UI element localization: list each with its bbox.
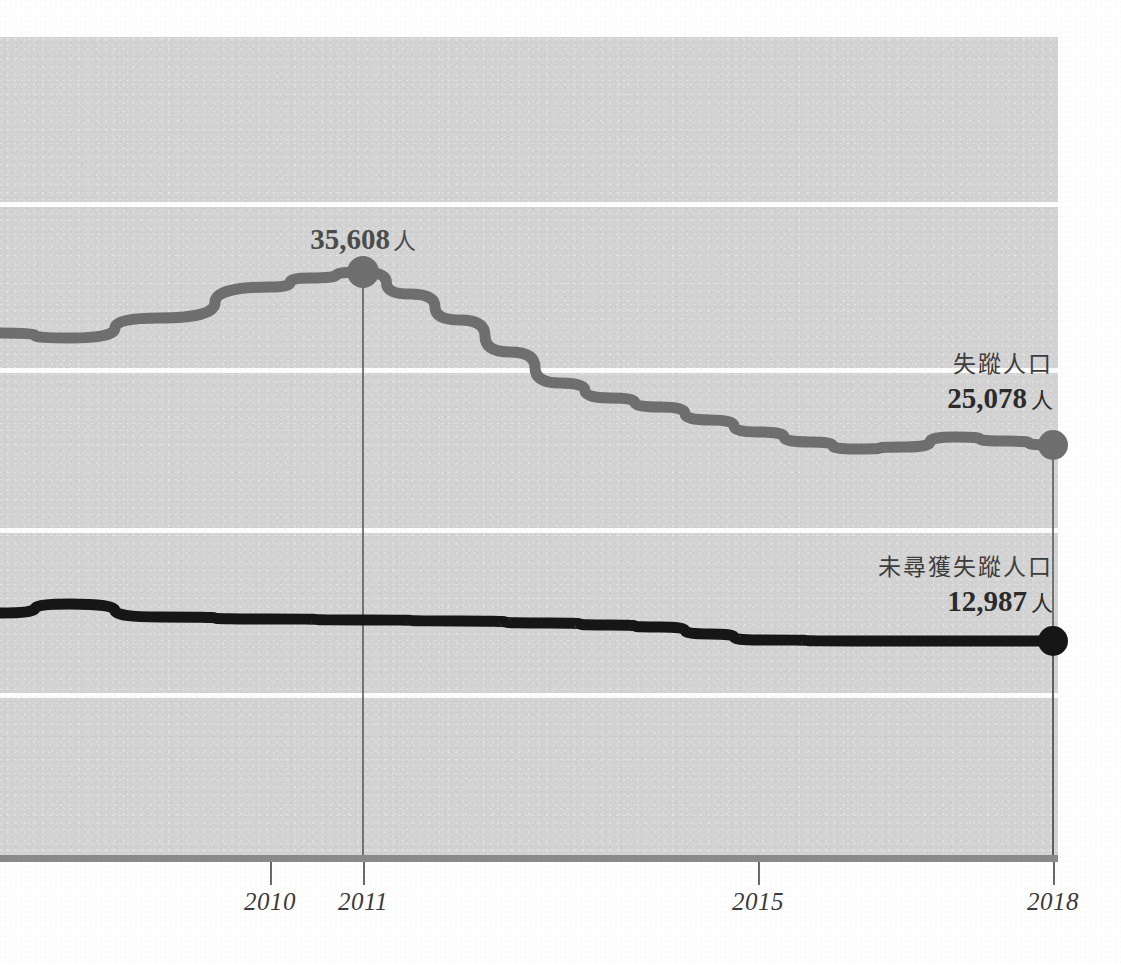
x-axis-label-2015: 2015 [732,888,784,916]
series-label-missing-persons-unit: 人 [1027,388,1053,413]
series-plot [0,0,1121,965]
x-axis-tick-2018 [1053,862,1055,885]
series-endpoint-marker-1 [1038,626,1068,656]
x-axis-line [0,855,1058,862]
x-axis-label-2011: 2011 [338,888,388,916]
series-label-missing-persons-value: 25,078人 [763,382,1053,415]
x-axis-tick-2011 [363,862,365,885]
x-axis-label-2010: 2010 [244,888,296,916]
series-label-missing-persons-name: 失蹤人口 [763,345,1053,379]
series-label-unfound-persons-value: 12,987人 [733,585,1053,618]
x-axis-tick-2010 [270,862,272,885]
series-label-unfound-persons: 未尋獲失蹤人口 12,987人 [733,548,1053,618]
series-label-unfound-persons-unit: 人 [1027,591,1053,616]
series-label-unfound-persons-number: 12,987 [947,585,1027,617]
x-axis-tick-2015 [758,862,760,885]
series-label-unfound-persons-name: 未尋獲失蹤人口 [733,548,1053,582]
x-axis-label-2018: 2018 [1027,888,1079,916]
peak-annotation-value: 35,608 [310,223,390,255]
peak-annotation: 35,608人 [310,222,416,256]
series-endpoint-marker-0 [1038,430,1068,460]
peak-marker [347,256,379,288]
series-label-missing-persons: 失蹤人口 25,078人 [763,345,1053,415]
chart-stage: 2010201120152018 35,608人 失蹤人口 25,078人 未尋… [0,0,1121,965]
peak-annotation-unit: 人 [390,229,416,254]
series-label-missing-persons-number: 25,078 [947,382,1027,414]
